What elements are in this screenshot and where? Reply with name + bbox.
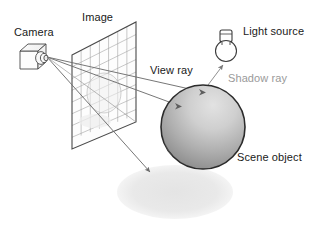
label-view-ray: View ray	[150, 64, 193, 76]
light-source-icon	[216, 30, 237, 62]
label-scene-object: Scene object	[237, 151, 302, 163]
ray-tracing-diagram: Camera Image Light source View ray Shado…	[0, 0, 322, 228]
cast-shadow	[117, 165, 233, 219]
label-shadow-ray: Shadow ray	[228, 72, 287, 84]
camera-icon	[20, 44, 48, 69]
label-light-source: Light source	[243, 25, 304, 37]
projected-sphere-shadow	[79, 114, 111, 128]
scene-object-sphere	[161, 85, 245, 169]
image-plane	[72, 22, 136, 149]
label-camera: Camera	[14, 26, 54, 38]
label-image: Image	[82, 11, 113, 23]
